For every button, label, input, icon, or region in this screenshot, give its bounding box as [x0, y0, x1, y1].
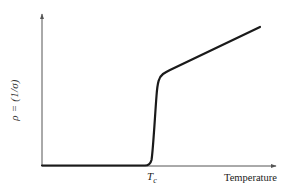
y-axis-label: ρ = (1/σ) [8, 79, 20, 120]
x-axis-label: Temperature [224, 172, 277, 183]
resistivity-temperature-diagram: ρ = (1/σ) Tc Temperature [0, 0, 290, 192]
critical-temperature-label: Tc [147, 170, 157, 185]
plot-area [0, 0, 290, 192]
resistivity-curve [42, 27, 260, 166]
tc-subscript: c [153, 176, 157, 185]
